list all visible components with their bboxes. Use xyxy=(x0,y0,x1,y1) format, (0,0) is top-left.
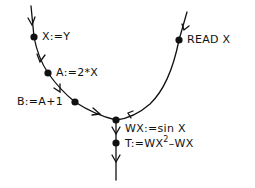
node-label-n4: READ X xyxy=(187,34,230,46)
node-dot-n5 xyxy=(112,116,119,123)
node-label-n6-tail: –WX xyxy=(169,137,194,150)
node-label-n6-base: T:=WX xyxy=(125,137,163,150)
node-label-n6-exponent: 2 xyxy=(163,135,168,144)
node-label-n2: A:=2*X xyxy=(56,67,98,79)
node-dot-n1 xyxy=(30,33,37,40)
arrow-icon xyxy=(37,54,45,62)
node-label-n6: T:=WX2–WX xyxy=(125,138,194,151)
node-dot-n6 xyxy=(112,139,119,146)
diagram-edges xyxy=(0,0,255,188)
node-dot-n2 xyxy=(44,69,51,76)
edge-n3-n5 xyxy=(75,102,116,120)
flow-diagram: X:=Y A:=2*X B:=A+1 READ X WX:=sin X T:=W… xyxy=(0,0,255,188)
arrow-icon xyxy=(28,17,35,25)
node-dot-n3 xyxy=(71,98,78,105)
node-label-n3: B:=A+1 xyxy=(17,96,63,108)
edge-n4-n5 xyxy=(116,40,179,120)
node-label-n5: WX:=sin X xyxy=(125,123,186,135)
node-label-n1: X:=Y xyxy=(42,31,70,43)
node-dot-n4 xyxy=(175,36,182,43)
